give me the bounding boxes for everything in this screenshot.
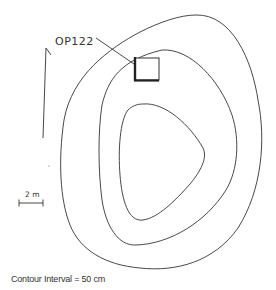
outer-contour: [61, 15, 262, 269]
unit-label: OP122: [55, 35, 94, 48]
scale-label: 2 m: [25, 190, 39, 199]
square-unit-marker: [134, 57, 159, 81]
scale-bar: 2 m: [19, 190, 43, 207]
map-dot: [48, 165, 49, 166]
inner-contour: [119, 104, 204, 220]
label-leader-line: [96, 38, 134, 64]
contour-interval-caption: Contour Interval = 50 cm: [11, 274, 105, 284]
contour-map: OP122 2 m: [0, 0, 276, 290]
north-arrow-icon: [43, 48, 51, 138]
